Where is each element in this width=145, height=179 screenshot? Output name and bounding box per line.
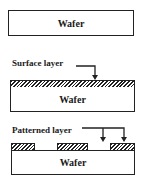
annotation-arrows: [0, 0, 145, 179]
patterned-layer-arrow-icon: [82, 128, 124, 138]
surface-layer-arrow-icon: [76, 66, 95, 76]
